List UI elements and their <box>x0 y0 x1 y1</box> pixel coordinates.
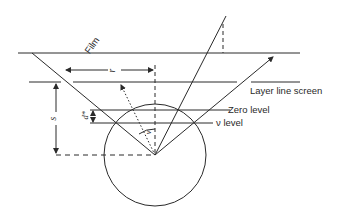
r-label: r <box>108 69 118 73</box>
s-label: s <box>49 117 59 121</box>
nu-level-label: ν level <box>216 118 243 128</box>
diagram-canvas <box>0 0 340 217</box>
diffracted-ray-steep <box>155 16 226 155</box>
diagonal-ray-left <box>32 53 155 155</box>
layer-line-screen-label: Layer line screen <box>250 86 322 96</box>
nu-angle-label: ν <box>144 130 153 134</box>
layer-line-screen-geometry-diagram: Film Layer line screen Zero level ν leve… <box>0 0 340 217</box>
zero-level-label: Zero level <box>228 105 270 115</box>
dstar-label: d* <box>81 111 90 120</box>
dotted-ray <box>121 85 155 155</box>
